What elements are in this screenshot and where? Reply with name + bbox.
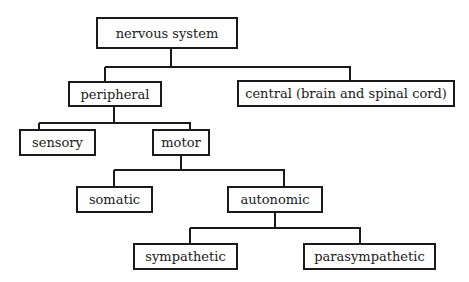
node-label: somatic [89, 192, 140, 207]
node-label: peripheral [81, 87, 150, 102]
nervous-system-tree-diagram: nervous system peripheral central (brain… [0, 0, 469, 282]
node-sensory: sensory [19, 129, 96, 156]
node-parasympathetic: parasympathetic [303, 243, 436, 270]
node-autonomic: autonomic [227, 186, 323, 213]
node-motor: motor [152, 129, 210, 156]
node-label: sensory [32, 135, 83, 150]
node-label: sympathetic [145, 249, 225, 264]
node-label: motor [161, 135, 200, 150]
node-sympathetic: sympathetic [133, 243, 238, 270]
node-somatic: somatic [76, 186, 153, 213]
node-label: autonomic [240, 192, 309, 207]
node-central: central (brain and spinal cord) [237, 80, 455, 107]
node-label: nervous system [116, 26, 219, 41]
node-nervous-system: nervous system [96, 17, 238, 49]
node-peripheral: peripheral [68, 81, 162, 107]
node-label: parasympathetic [314, 249, 424, 264]
node-label: central (brain and spinal cord) [245, 86, 447, 101]
